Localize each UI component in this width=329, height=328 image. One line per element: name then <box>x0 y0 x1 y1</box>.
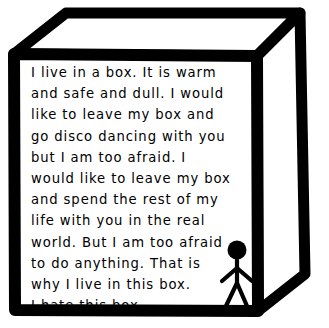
message-line: life with you in the real <box>31 210 247 232</box>
message-line: but I am too afraid. I <box>31 146 247 168</box>
message-line: would like to leave my box <box>31 168 247 190</box>
message-block: I live in a box. It is warm and safe and… <box>31 62 247 316</box>
message-line: I hate this box. <box>31 295 247 317</box>
message-line: to do anything. That is <box>31 252 247 274</box>
message-line: why I live in this box. <box>31 274 247 296</box>
message-line: and spend the rest of my <box>31 189 247 211</box>
message-line: I live in a box. It is warm <box>31 62 247 84</box>
message-line: world. But I am too afraid <box>31 231 247 253</box>
message-line: go disco dancing with you <box>31 125 247 147</box>
right-side-face <box>257 13 305 311</box>
artwork-canvas: I live in a box. It is warm and safe and… <box>0 0 329 328</box>
message-line: and safe and dull. I would <box>31 83 247 105</box>
message-line: like to leave my box and <box>31 104 247 126</box>
